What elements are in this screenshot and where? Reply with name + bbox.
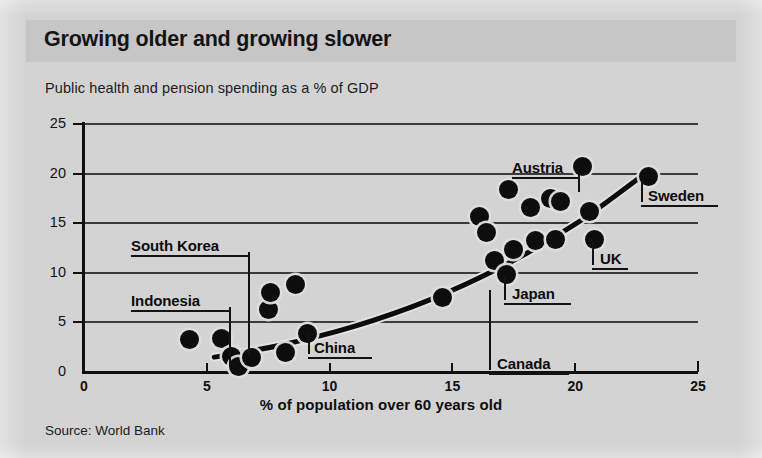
callout-underline (600, 268, 628, 270)
trend-line (0, 0, 762, 458)
data-point-south-korea (242, 348, 261, 367)
callout-leader (641, 180, 643, 202)
callout-elbow (308, 357, 314, 359)
callout-elbow (244, 255, 250, 257)
callout-elbow (224, 310, 231, 312)
callout-elbow (641, 205, 648, 207)
callout-leader (308, 333, 310, 354)
callout-elbow (592, 268, 600, 270)
callout-label: Indonesia (131, 292, 200, 309)
callout-label: South Korea (131, 237, 219, 254)
callout-label: Austria (512, 159, 563, 176)
data-point (259, 300, 278, 319)
callout-leader (592, 243, 594, 265)
callout-label: Sweden (648, 187, 704, 204)
plot-area: 05101520250510152025South KoreaIndonesia… (0, 0, 762, 458)
callout-label: Japan (512, 285, 555, 302)
data-point (526, 231, 545, 250)
data-point-uk (585, 230, 604, 249)
callout-leader (489, 290, 491, 370)
callout-label: UK (600, 250, 621, 267)
data-point (286, 275, 305, 294)
callout-underline (131, 310, 224, 312)
callout-elbow (489, 373, 497, 375)
callout-underline (131, 255, 244, 257)
callout-underline (512, 177, 578, 179)
callout-underline (497, 373, 569, 375)
data-point (551, 192, 570, 211)
callout-underline (314, 357, 372, 359)
callout-label: Canada (497, 355, 551, 372)
callout-underline (512, 303, 571, 305)
callout-underline (648, 205, 718, 207)
callout-leader (229, 307, 231, 367)
data-point (546, 230, 565, 249)
callout-elbow (578, 177, 580, 179)
chart-figure: Growing older and growing slower Public … (0, 0, 762, 458)
callout-elbow (504, 303, 512, 305)
data-point (180, 330, 199, 349)
callout-label: China (314, 339, 355, 356)
callout-leader (504, 276, 506, 300)
data-point (276, 343, 295, 362)
data-point (477, 223, 496, 242)
callout-leader (248, 252, 250, 356)
